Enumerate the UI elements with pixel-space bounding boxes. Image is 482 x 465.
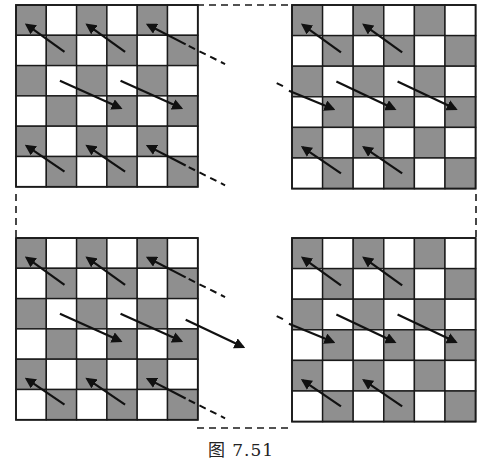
dark-cell	[292, 127, 323, 158]
light-cell	[292, 97, 323, 128]
light-cell	[292, 391, 323, 422]
grid-bottom-left	[16, 238, 243, 420]
dark-cell	[414, 127, 445, 158]
dark-cell	[16, 126, 46, 156]
dark-cell	[323, 330, 354, 361]
dark-cell	[107, 390, 137, 420]
dark-cell	[384, 97, 415, 128]
dark-cell	[168, 96, 198, 126]
continuation-dash	[277, 316, 286, 321]
dark-cell	[16, 5, 46, 35]
dark-cell	[384, 330, 415, 361]
light-cell	[353, 158, 384, 189]
light-cell	[137, 35, 167, 65]
continuation-dash	[277, 83, 286, 88]
light-cell	[107, 126, 137, 156]
light-cell	[445, 66, 476, 97]
light-cell	[353, 36, 384, 67]
dark-cell	[445, 158, 476, 189]
light-cell	[445, 299, 476, 330]
light-cell	[384, 360, 415, 391]
dark-cell	[107, 157, 137, 187]
dark-cell	[445, 269, 476, 300]
dark-cell	[16, 359, 46, 389]
light-cell	[445, 360, 476, 391]
dark-cell	[445, 330, 476, 361]
dark-cell	[46, 390, 76, 420]
light-cell	[168, 126, 198, 156]
light-cell	[384, 127, 415, 158]
dark-cell	[46, 329, 76, 359]
light-cell	[77, 157, 107, 187]
dark-cell	[323, 158, 354, 189]
light-cell	[414, 158, 445, 189]
dark-cell	[353, 360, 384, 391]
dark-cell	[168, 35, 198, 65]
dark-cell	[16, 238, 46, 268]
dark-cell	[414, 5, 445, 36]
grid-top-right	[277, 5, 476, 189]
dark-cell	[168, 268, 198, 298]
light-cell	[107, 359, 137, 389]
dark-cell	[323, 97, 354, 128]
light-cell	[353, 391, 384, 422]
dark-cell	[137, 5, 167, 35]
light-cell	[16, 35, 46, 65]
dark-cell	[16, 66, 46, 96]
dark-cell	[292, 299, 323, 330]
light-cell	[16, 96, 46, 126]
dark-cell	[323, 391, 354, 422]
light-cell	[384, 5, 415, 36]
dark-cell	[137, 238, 167, 268]
dark-cell	[292, 238, 323, 269]
light-cell	[292, 330, 323, 361]
light-cell	[168, 238, 198, 268]
light-cell	[46, 126, 76, 156]
dark-cell	[414, 360, 445, 391]
dark-cell	[292, 5, 323, 36]
light-cell	[137, 157, 167, 187]
light-cell	[107, 238, 137, 268]
light-cell	[414, 391, 445, 422]
light-cell	[292, 36, 323, 67]
checkerboard-tiling-diagram	[0, 0, 482, 465]
light-cell	[107, 5, 137, 35]
light-cell	[137, 268, 167, 298]
dark-cell	[77, 5, 107, 35]
light-cell	[323, 127, 354, 158]
dark-cell	[16, 299, 46, 329]
light-cell	[46, 238, 76, 268]
dark-cell	[77, 359, 107, 389]
light-cell	[46, 359, 76, 389]
grid-top-left	[16, 5, 225, 187]
dark-cell	[107, 96, 137, 126]
dark-cell	[353, 238, 384, 269]
light-cell	[445, 127, 476, 158]
light-cell	[46, 5, 76, 35]
dark-cell	[77, 238, 107, 268]
light-cell	[16, 329, 46, 359]
light-cell	[168, 66, 198, 96]
dark-cell	[168, 157, 198, 187]
light-cell	[384, 238, 415, 269]
dark-cell	[445, 97, 476, 128]
dark-cell	[445, 391, 476, 422]
light-cell	[16, 390, 46, 420]
dark-cell	[353, 127, 384, 158]
light-cell	[77, 268, 107, 298]
light-cell	[292, 158, 323, 189]
light-cell	[137, 390, 167, 420]
light-cell	[16, 157, 46, 187]
dark-cell	[46, 96, 76, 126]
dark-cell	[445, 36, 476, 67]
dark-cell	[292, 360, 323, 391]
dark-cell	[384, 158, 415, 189]
light-cell	[445, 5, 476, 36]
dark-cell	[414, 238, 445, 269]
figure-caption: 图 7.51	[0, 436, 482, 461]
light-cell	[445, 238, 476, 269]
dark-cell	[168, 329, 198, 359]
dark-cell	[137, 359, 167, 389]
dark-cell	[384, 391, 415, 422]
light-cell	[168, 359, 198, 389]
